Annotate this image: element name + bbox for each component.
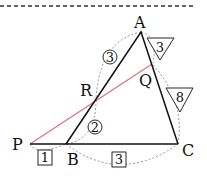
ratio-AQ: 3 — [156, 40, 164, 55]
label-Q: Q — [139, 71, 152, 90]
label-A: A — [133, 13, 146, 32]
label-P: P — [12, 135, 23, 154]
ratio-QC: 8 — [176, 90, 184, 105]
ratio-PB: 1 — [41, 150, 49, 165]
label-R: R — [80, 81, 93, 100]
label-B: B — [67, 150, 79, 169]
label-C: C — [182, 141, 194, 160]
ratio-BC: 3 — [115, 152, 123, 167]
ratio-AR: 3 — [106, 50, 114, 65]
geometry-diagram: A B C P Q R 3 2 3 8 1 3 — [0, 0, 207, 180]
ratio-RB: 2 — [91, 120, 99, 135]
